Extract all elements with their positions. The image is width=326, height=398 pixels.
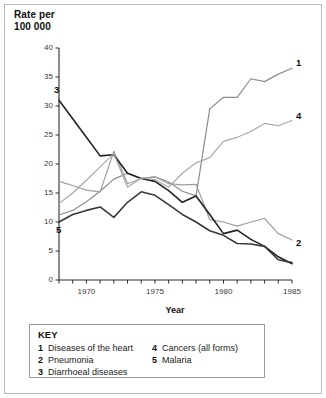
series-end-label-3: 3 [54,84,59,95]
legend-item-number: 2 [38,355,48,365]
legend-item-label: Malaria [162,355,192,365]
data-lines-group [59,68,292,263]
legend-item-number: 5 [152,355,162,365]
y-tick-label: 40 [29,43,53,52]
tick-marks-group [56,48,293,284]
x-tick-label: 1975 [140,287,170,296]
legend-item-number: 3 [38,367,48,377]
y-tick-label: 10 [29,217,53,226]
series-line-5 [59,192,292,263]
y-tick-label: 5 [29,246,53,255]
x-tick-label: 1980 [208,287,238,296]
x-tick-label: 1985 [277,287,307,296]
y-tick-label: 0 [29,275,53,284]
legend-item-label: Cancers (all forms) [162,343,238,353]
legend-item-number: 1 [38,343,48,353]
legend-item-label: Diarrhoeal diseases [48,367,128,377]
legend-item-4: 4Cancers (all forms) [152,343,238,355]
chart-figure: Rate per100 000 0510152025303540 1970197… [0,0,326,398]
y-tick-label: 30 [29,101,53,110]
legend-column-left: 1Diseases of the heart2Pneumonia3Diarrho… [38,343,133,379]
legend-item-label: Pneumonia [48,355,94,365]
legend-item-1: 1Diseases of the heart [38,343,133,355]
y-tick-label: 20 [29,159,53,168]
legend-box: KEY 1Diseases of the heart2Pneumonia3Dia… [29,324,265,378]
legend-item-5: 5Malaria [152,355,238,367]
series-end-label-4: 4 [296,110,301,121]
series-line-3 [59,100,292,264]
legend-item-number: 4 [152,343,162,353]
legend-item-label: Diseases of the heart [48,343,133,353]
legend-column-right: 4Cancers (all forms)5Malaria [152,343,238,367]
y-tick-label: 15 [29,188,53,197]
legend-item-2: 2Pneumonia [38,355,133,367]
series-end-label-5: 5 [56,224,61,235]
series-end-label-1: 1 [296,57,301,68]
y-tick-label: 25 [29,130,53,139]
series-line-1 [59,68,292,215]
legend-item-3: 3Diarrhoeal diseases [38,367,133,379]
x-axis-title: Year [145,305,205,315]
series-end-label-2: 2 [296,237,301,248]
y-tick-label: 35 [29,72,53,81]
legend-title: KEY [38,329,58,340]
x-tick-label: 1970 [71,287,101,296]
